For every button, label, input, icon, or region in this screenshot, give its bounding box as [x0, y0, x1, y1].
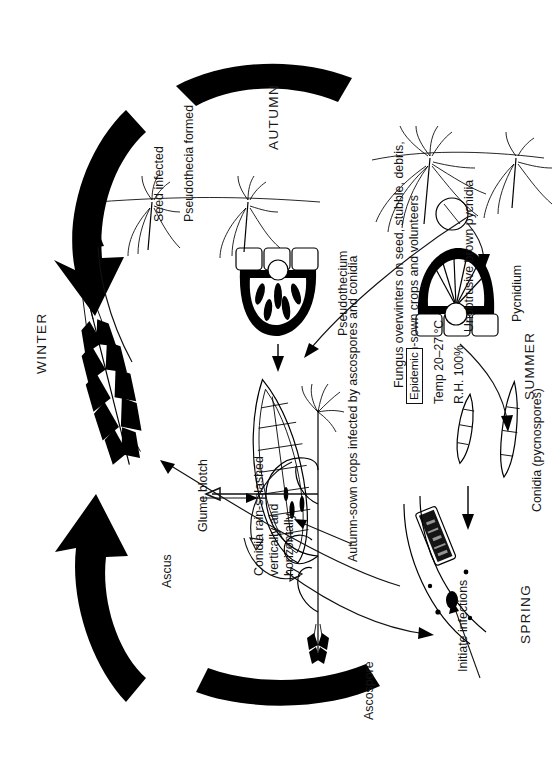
label-epidemic: Epidemic — [406, 348, 423, 404]
cycle-arrow-winter-to-spring — [196, 664, 380, 706]
season-label-winter: WINTER — [34, 312, 50, 374]
label-conidia-pycnospores: Conidia (pycnospores) — [530, 388, 545, 512]
label-relative-humidity: R.H. 100% — [452, 345, 468, 404]
season-label-autumn: AUTUMN — [266, 84, 282, 150]
label-pycnidium: Pycnidium — [510, 265, 525, 322]
cycle-arrow-spring-to-summer — [55, 494, 146, 702]
label-pseudothecia-formed: Pseudothecia formed — [182, 105, 197, 222]
label-pseudothecium: Pseudothecium — [336, 251, 351, 336]
label-conidia-rain-splashed: Conidia rain-splashed vertically and hor… — [252, 456, 297, 576]
label-ascus: Ascus — [160, 554, 175, 588]
autumn-sown-seedlings-illustration — [96, 176, 320, 258]
cycle-arrow-summer-to-autumn — [54, 110, 146, 316]
label-glume-blotch: Glume blotch — [196, 459, 211, 532]
pseudothecium-illustration — [236, 248, 318, 336]
label-unobtrusive-brown-pycnidia: Unobtrusive brown pycnidia — [462, 180, 477, 332]
cycle-arrow-autumn-to-winter — [176, 64, 352, 106]
label-temperature: Temp 20–27 °C — [432, 320, 448, 404]
label-seed-infected: Seed infected — [152, 146, 167, 222]
label-initiate-infections: Initiate infections — [456, 580, 471, 672]
epidemic-badge: Epidemic — [404, 348, 423, 404]
disease-cycle-diagram: AUTUMN SUMMER SPRING WINTER Glume blotch… — [0, 0, 558, 762]
season-label-spring: SPRING — [518, 584, 534, 644]
leaf-lesion-closeup-illustration — [404, 496, 486, 644]
label-ascospore: Ascospore — [362, 661, 377, 720]
figure-canvas: AUTUMN SUMMER SPRING WINTER Glume blotch… — [0, 0, 558, 762]
